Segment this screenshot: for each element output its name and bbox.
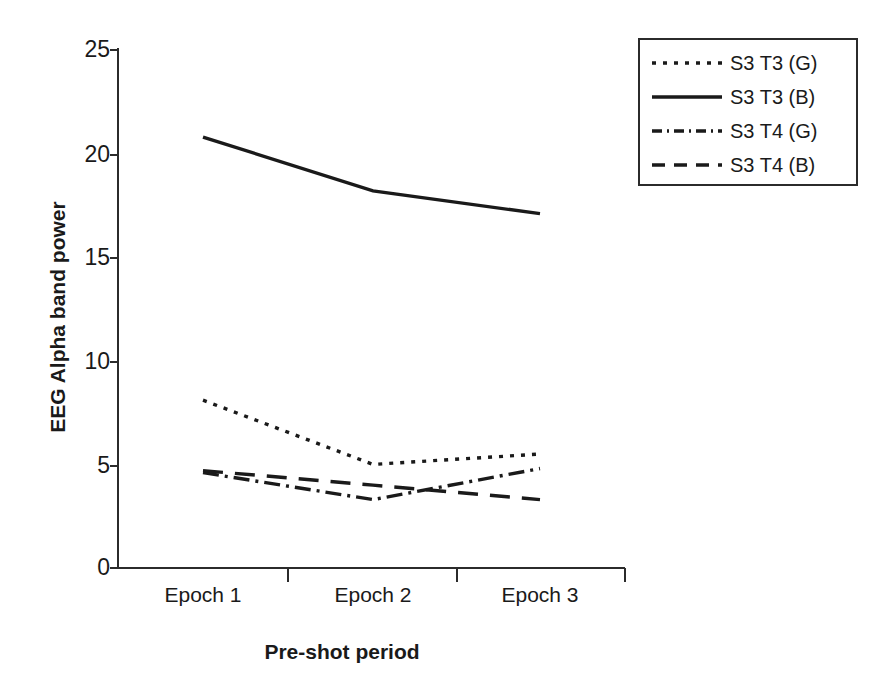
legend-label-s3-t3-b: S3 T3 (B) xyxy=(730,86,815,109)
series-line-s3-t4-b xyxy=(203,471,540,500)
x-axis-ticks xyxy=(288,568,625,582)
legend-item-s3-t3-g: S3 T3 (G) xyxy=(640,46,856,80)
legend-swatch-dashed-icon xyxy=(650,158,724,172)
legend-item-s3-t3-b: S3 T3 (B) xyxy=(640,80,856,114)
legend-swatch-solid-icon xyxy=(650,90,724,104)
legend-label-s3-t3-g: S3 T3 (G) xyxy=(730,52,817,75)
y-axis-ticks xyxy=(110,50,118,568)
eeg-alpha-band-power-chart: EEG Alpha band power 25 20 15 10 5 0 Epo… xyxy=(0,0,875,697)
legend-item-s3-t4-b: S3 T4 (B) xyxy=(640,148,856,182)
legend-label-s3-t4-g: S3 T4 (G) xyxy=(730,120,817,143)
chart-legend: S3 T3 (G) S3 T3 (B) S3 T4 (G) S3 T4 (B) xyxy=(638,38,858,186)
legend-item-s3-t4-g: S3 T4 (G) xyxy=(640,114,856,148)
legend-label-s3-t4-b: S3 T4 (B) xyxy=(730,154,815,177)
series-line-s3-t3-g xyxy=(203,400,540,464)
legend-swatch-dotted-icon xyxy=(650,56,724,70)
series-line-s3-t3-b xyxy=(203,137,540,214)
legend-swatch-dashdot-icon xyxy=(650,124,724,138)
